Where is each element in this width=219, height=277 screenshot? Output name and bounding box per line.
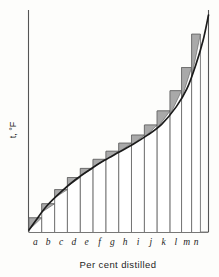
x-tick-label-m: m xyxy=(183,237,190,247)
chart-svg: abcdefghijklmn Per cent distilled t, °F xyxy=(0,0,219,277)
x-tick-label-j: j xyxy=(147,237,152,247)
x-tick-label-n: n xyxy=(194,237,199,247)
bar-fill xyxy=(131,135,144,232)
x-tick-label-f: f xyxy=(98,237,102,247)
bar-fill xyxy=(106,151,119,232)
bar-fill xyxy=(80,168,93,232)
bar-fill xyxy=(144,125,157,232)
x-tick-labels: abcdefghijklmn xyxy=(33,237,199,247)
x-tick-label-k: k xyxy=(162,237,167,247)
x-tick-label-e: e xyxy=(85,237,89,247)
x-axis-caption: Per cent distilled xyxy=(80,259,157,270)
x-tick-label-l: l xyxy=(175,237,178,247)
x-tick-label-i: i xyxy=(137,237,140,247)
x-tick-label-d: d xyxy=(72,237,77,247)
distillation-curve-figure: abcdefghijklmn Per cent distilled t, °F xyxy=(0,0,219,277)
bar-fill xyxy=(119,143,132,232)
y-axis-caption: t, °F xyxy=(8,121,18,138)
x-tick-label-a: a xyxy=(33,237,38,247)
x-tick-label-c: c xyxy=(59,237,64,247)
x-tick-label-g: g xyxy=(110,237,115,247)
bar-fill xyxy=(157,111,170,232)
x-tick-label-b: b xyxy=(46,237,51,247)
bar-group xyxy=(29,34,200,232)
x-tick-label-h: h xyxy=(123,237,128,247)
bar-fill xyxy=(93,159,106,232)
